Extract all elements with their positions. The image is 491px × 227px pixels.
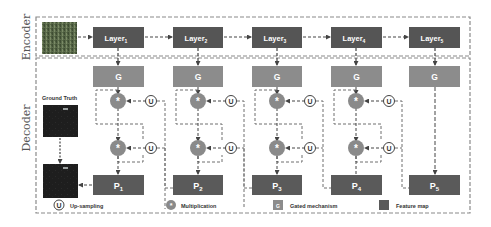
- multiply-node: *: [110, 93, 126, 109]
- multiply-node: *: [190, 140, 206, 156]
- legend-upsampling: U Up-sampling: [54, 200, 103, 210]
- multiply-node: *: [348, 140, 364, 156]
- multiply-node: *: [190, 93, 206, 109]
- prediction-p1: P1: [93, 175, 144, 195]
- svg-text:U: U: [307, 98, 312, 105]
- svg-text:U: U: [56, 202, 61, 209]
- svg-text:Layer3: Layer3: [264, 34, 287, 44]
- architecture-diagram: Encoder Decoder Layer1 Layer2 Layer3 Lay…: [0, 0, 491, 227]
- upsample-node: U: [384, 143, 395, 154]
- layer-1: Layer1: [93, 27, 144, 48]
- layer-4: Layer4: [331, 27, 382, 48]
- svg-text:*: *: [354, 143, 358, 154]
- svg-text:*: *: [275, 96, 279, 107]
- svg-text:U: U: [307, 145, 312, 152]
- multiply-node: *: [269, 140, 285, 156]
- prediction-p4: P4: [331, 175, 382, 195]
- legend-multiplication: * Multiplication: [166, 200, 217, 210]
- svg-text:*: *: [196, 143, 200, 154]
- input-image: [42, 22, 77, 54]
- svg-text:Gated mechanism: Gated mechanism: [290, 203, 337, 209]
- prediction-p5: P5: [409, 175, 460, 195]
- svg-text:G: G: [115, 72, 122, 82]
- svg-text:Layer4: Layer4: [343, 34, 366, 44]
- gates: G G G G G: [93, 66, 460, 87]
- gate-4: G: [331, 66, 382, 87]
- decoder-section-label: Decoder: [20, 104, 33, 152]
- svg-text:G: G: [274, 72, 281, 82]
- multiply-node: *: [348, 93, 364, 109]
- layer-3: Layer3: [252, 27, 302, 48]
- svg-text:*: *: [116, 143, 120, 154]
- legend-gated-mechanism: G Gated mechanism: [273, 200, 337, 210]
- output-highlight: [63, 167, 68, 169]
- legend-feature-map: Feature map: [379, 200, 429, 210]
- ground-truth-highlight: [63, 108, 68, 110]
- upsample-node: U: [146, 96, 157, 107]
- output-comparison-image: [43, 164, 78, 198]
- ground-truth-label: Ground Truth: [42, 95, 78, 101]
- svg-text:*: *: [170, 202, 173, 209]
- svg-text:Layer2: Layer2: [185, 34, 208, 44]
- svg-text:*: *: [275, 143, 279, 154]
- svg-text:Feature map: Feature map: [396, 203, 429, 209]
- svg-text:U: U: [386, 145, 391, 152]
- encoder-section-label: Encoder: [20, 13, 33, 60]
- upsample-node: U: [226, 96, 237, 107]
- svg-text:*: *: [116, 96, 120, 107]
- upsample-node: U: [305, 143, 316, 154]
- svg-text:Multiplication: Multiplication: [181, 203, 217, 209]
- prediction-p3: P3: [252, 175, 302, 195]
- gate-2: G: [173, 66, 223, 87]
- upsample-node: U: [226, 143, 237, 154]
- svg-text:*: *: [354, 96, 358, 107]
- upsample-node: U: [305, 96, 316, 107]
- gate-1: G: [93, 66, 144, 87]
- upsample-node: U: [146, 143, 157, 154]
- svg-text:G: G: [353, 72, 360, 82]
- svg-text:Layer1: Layer1: [105, 34, 128, 44]
- multiply-node: *: [269, 93, 285, 109]
- upsample-node: U: [384, 96, 395, 107]
- multiply-node: *: [110, 140, 126, 156]
- svg-text:U: U: [148, 145, 153, 152]
- ground-truth-image: [43, 105, 78, 137]
- prediction-p2: P2: [173, 175, 223, 195]
- svg-text:*: *: [196, 96, 200, 107]
- layer-5: Layer5: [409, 27, 460, 48]
- legend: U Up-sampling * Multiplication G Gated m…: [54, 200, 429, 210]
- svg-text:U: U: [228, 145, 233, 152]
- svg-text:U: U: [386, 98, 391, 105]
- svg-text:Layer5: Layer5: [421, 34, 444, 44]
- svg-text:U: U: [228, 98, 233, 105]
- svg-text:G: G: [276, 203, 280, 209]
- gate-5: G: [409, 66, 460, 87]
- layer-2: Layer2: [173, 27, 223, 48]
- gate-3: G: [252, 66, 302, 87]
- predictions: P1 P2 P3 P4 P5: [93, 175, 460, 195]
- svg-text:G: G: [195, 72, 202, 82]
- svg-text:U: U: [148, 98, 153, 105]
- svg-text:Up-sampling: Up-sampling: [70, 203, 103, 209]
- svg-text:G: G: [431, 72, 438, 82]
